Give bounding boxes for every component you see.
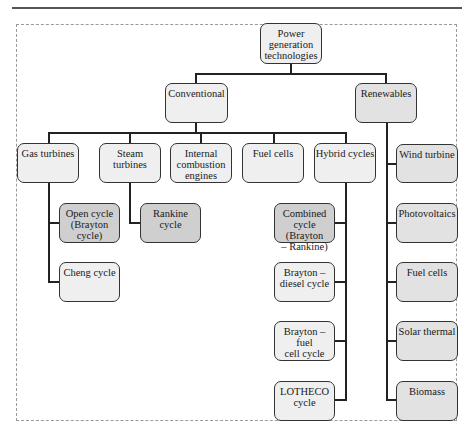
node-label: Hybrid cycles <box>315 148 375 159</box>
connector <box>129 182 131 224</box>
node-biomass: Biomass <box>396 381 458 421</box>
connector <box>129 222 140 224</box>
node-label: Conventional <box>166 88 227 99</box>
node-label: Internal combustion engines <box>171 148 231 181</box>
node-combined-cycle: Combined cycle (Brayton – Rankine) <box>274 203 335 243</box>
node-cheng-cycle: Cheng cycle <box>59 262 120 302</box>
node-renewables: Renewables <box>355 83 417 123</box>
connector <box>48 132 347 134</box>
node-label: Brayton – diesel cycle <box>275 267 334 289</box>
connector <box>129 132 131 143</box>
node-internal-combustion-engines: Internal combustion engines <box>170 143 232 183</box>
connector <box>386 340 396 342</box>
connector <box>48 222 59 224</box>
connector <box>200 132 202 143</box>
top-rule <box>12 7 462 9</box>
connector <box>273 132 275 143</box>
connector <box>48 132 50 143</box>
node-brayton-diesel-cycle: Brayton – diesel cycle <box>274 262 335 302</box>
connector <box>386 399 396 401</box>
connector <box>335 399 346 401</box>
node-label: Renewables <box>356 88 416 99</box>
connector <box>335 340 346 342</box>
node-label: Cheng cycle <box>60 267 119 278</box>
connector <box>385 73 387 83</box>
node-label: Combined cycle (Brayton – Rankine) <box>275 208 334 252</box>
node-label: Solar thermal <box>397 326 457 337</box>
node-open-cycle: Open cycle (Brayton cycle) <box>59 203 120 243</box>
node-lotheco-cycle: LOTHECO cycle <box>274 381 335 421</box>
connector <box>386 222 396 224</box>
node-gas-turbines: Gas turbines <box>17 143 79 183</box>
node-label: Power generation technologies <box>261 28 321 61</box>
node-label: Rankine cycle <box>141 208 200 230</box>
node-steam-turbines: Steam turbines <box>99 143 161 183</box>
node-fuel-cells-conventional: Fuel cells <box>242 143 304 183</box>
node-label: Wind turbine <box>397 149 457 160</box>
node-fuel-cells-renewable: Fuel cells <box>396 262 458 302</box>
node-solar-thermal: Solar thermal <box>396 321 458 361</box>
node-conventional: Conventional <box>165 83 228 123</box>
node-label: Biomass <box>397 386 457 397</box>
node-label: Open cycle (Brayton cycle) <box>60 208 119 241</box>
connector <box>195 73 387 75</box>
connector <box>195 73 197 83</box>
node-label: Steam turbines <box>100 148 160 170</box>
node-wind-turbine: Wind turbine <box>396 144 458 183</box>
node-label: Brayton – fuel cell cycle <box>275 326 334 359</box>
connector <box>48 182 50 283</box>
node-label: LOTHECO cycle <box>275 386 334 408</box>
node-label: Fuel cells <box>243 148 303 159</box>
node-photovoltaics: Photovoltaics <box>396 203 458 243</box>
node-label: Gas turbines <box>18 148 78 159</box>
node-hybrid-cycles: Hybrid cycles <box>314 143 376 183</box>
node-brayton-fuel-cell-cycle: Brayton – fuel cell cycle <box>274 321 335 361</box>
connector <box>386 163 396 165</box>
connector <box>48 281 59 283</box>
connector <box>345 182 347 401</box>
node-power-generation-technologies: Power generation technologies <box>260 23 322 64</box>
connector <box>345 132 347 143</box>
connector <box>335 222 346 224</box>
connector <box>335 281 346 283</box>
node-label: Fuel cells <box>397 267 457 278</box>
node-label: Photovoltaics <box>397 208 457 219</box>
node-rankine-cycle: Rankine cycle <box>140 203 201 243</box>
connector <box>386 281 396 283</box>
